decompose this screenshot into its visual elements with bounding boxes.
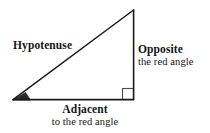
opposite-label: Opposite the red angle	[138, 43, 194, 68]
adjacent-label-primary: Adjacent	[52, 103, 119, 116]
hypotenuse-side	[13, 10, 134, 100]
opposite-label-primary: Opposite	[138, 43, 194, 56]
right-triangle-diagram: Hypotenuse Opposite the red angle Adjace…	[0, 0, 210, 133]
opposite-label-secondary: the red angle	[138, 56, 194, 68]
hypotenuse-label-primary: Hypotenuse	[13, 39, 72, 52]
adjacent-label: Adjacent to the red angle	[52, 103, 119, 128]
hypotenuse-label: Hypotenuse	[13, 39, 72, 52]
adjacent-label-secondary: to the red angle	[52, 116, 119, 128]
right-angle-square	[123, 89, 134, 100]
